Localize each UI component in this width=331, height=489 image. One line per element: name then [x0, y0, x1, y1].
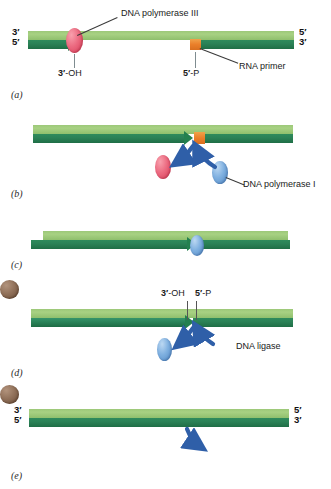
- panel-d: 3′-OH 5′-P DNA ligase (d): [0, 280, 331, 385]
- tick-five-prime-p-a: [195, 52, 196, 68]
- nascent-strand-c-left: [31, 240, 188, 249]
- three-prime-oh-label-a: 3′-OH: [58, 69, 82, 79]
- panel-b: DNA polymerase I (b): [0, 105, 331, 205]
- arrow-polymerase-i-exit: [178, 328, 193, 345]
- arrow-polymerase-iii-exit: [176, 146, 193, 163]
- rna-primer-label: RNA primer: [239, 62, 286, 72]
- end-label-a-left-bottom: 5′: [12, 37, 20, 47]
- dna-polymerase-iii-molecule: [66, 28, 83, 53]
- panel-b-arrows: [0, 105, 331, 205]
- panel-letter-d: (d): [11, 367, 23, 378]
- five-prime-p-suffix: -P: [190, 68, 199, 78]
- nascent-strand-a-left: [28, 40, 69, 49]
- arrow-ligase-exit: [187, 429, 201, 447]
- dna-polymerase-iii-label: DNA polymerase III: [121, 9, 199, 19]
- dna-polymerase-i-molecule-c: [190, 235, 204, 256]
- arrow-ligase-entry: [196, 327, 213, 344]
- panel-letter-e: (e): [11, 470, 22, 481]
- okazaki-fragment-figure: DNA polymerase III 3′-OH 5′-P RNA primer…: [0, 0, 331, 489]
- panel-d-arrows: [0, 280, 331, 385]
- three-prime-oh-suffix: -OH: [65, 68, 82, 78]
- panel-letter-c: (c): [11, 259, 22, 270]
- dna-ligase-label: DNA ligase: [236, 342, 281, 352]
- panel-c: (c): [0, 205, 331, 280]
- dna-polymerase-i-label: DNA polymerase I: [243, 180, 316, 190]
- panel-a: DNA polymerase III 3′-OH 5′-P RNA primer…: [0, 0, 331, 105]
- template-strand-c: [43, 231, 288, 240]
- nascent-strand-a-right: [200, 40, 294, 49]
- arrow-polymerase-i-entry: [196, 147, 215, 167]
- tick-three-prime-oh-a: [74, 54, 75, 68]
- five-prime-p-label-a: 5′-P: [183, 69, 199, 79]
- nascent-strand-c-right: [203, 240, 290, 249]
- panel-e-arrows: [0, 385, 331, 489]
- panel-e: 3′ 5′ 5′ 3′ (e): [0, 385, 331, 489]
- panel-letter-b: (b): [11, 188, 23, 199]
- end-label-a-right-bottom: 3′: [299, 37, 307, 47]
- panel-letter-a: (a): [11, 89, 23, 100]
- leader-line-rna-primer: [200, 48, 239, 64]
